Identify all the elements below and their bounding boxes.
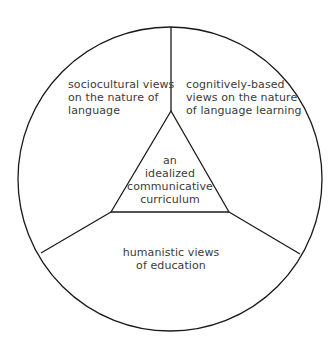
label-line: humanistic views xyxy=(110,246,232,259)
divider-left xyxy=(41,212,111,253)
label-line: views on the nature xyxy=(186,91,302,104)
divider-right xyxy=(229,212,300,254)
segment-humanistic-label: humanistic views of education xyxy=(110,246,232,272)
label-line: curriculum xyxy=(111,193,229,206)
label-line: sociocultural views xyxy=(68,78,174,91)
label-line: communicative xyxy=(111,180,229,193)
center-curriculum-label: an idealized communicative curriculum xyxy=(111,154,229,206)
label-line: of education xyxy=(110,259,232,272)
label-line: of language learning xyxy=(186,104,302,117)
segment-sociocultural-label: sociocultural views on the nature of lan… xyxy=(68,78,174,117)
segment-cognitive-label: cognitively-based views on the nature of… xyxy=(186,78,302,117)
label-line: idealized xyxy=(111,167,229,180)
label-line: an xyxy=(111,154,229,167)
label-line: language xyxy=(68,104,174,117)
label-line: on the nature of xyxy=(68,91,174,104)
label-line: cognitively-based xyxy=(186,78,302,91)
